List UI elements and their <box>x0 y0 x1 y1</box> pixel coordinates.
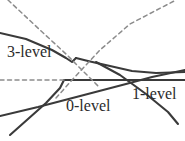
annotation-0-level: 0-level <box>66 98 110 114</box>
chart-series-line <box>76 58 185 73</box>
figure-root: 3-level 0-level 1-level <box>0 0 185 141</box>
level-diagram-plot <box>0 0 185 141</box>
annotation-3-level: 3-level <box>7 44 51 60</box>
series-group <box>0 0 185 135</box>
annotation-1-level: 1-level <box>132 86 176 102</box>
chart-series-line <box>56 0 176 98</box>
